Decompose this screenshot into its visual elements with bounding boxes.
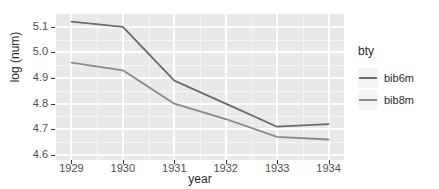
legend-label: bib6m	[384, 72, 414, 84]
legend-item-bib6m[interactable]: bib6m	[358, 67, 438, 89]
y-tick-mark	[51, 52, 55, 53]
legend-label: bib8m	[384, 94, 414, 106]
y-tick-mark	[51, 27, 55, 28]
series-lines	[56, 14, 344, 160]
line-chart: log (num) 5.15.04.94.84.74.6 19291930193…	[0, 0, 439, 189]
plot-panel	[56, 14, 344, 160]
x-tick-mark	[123, 160, 124, 164]
y-tick-label: 4.7	[14, 123, 48, 134]
x-tick-mark	[277, 160, 278, 164]
x-tick-mark	[71, 160, 72, 164]
y-axis-tick-labels: 5.15.04.94.84.74.6	[10, 0, 48, 189]
y-tick-mark	[51, 155, 55, 156]
y-tick-mark	[51, 104, 55, 105]
legend-key-bib8m	[358, 90, 378, 110]
legend-title: bty	[358, 44, 438, 58]
x-axis-title: year	[56, 172, 344, 186]
x-tick-mark	[226, 160, 227, 164]
y-tick-label: 5.0	[14, 46, 48, 57]
y-tick-label: 5.1	[14, 21, 48, 32]
legend-item-bib8m[interactable]: bib8m	[358, 89, 438, 111]
legend-items: bib6mbib8m	[358, 67, 438, 111]
y-tick-mark	[51, 129, 55, 130]
y-tick-label: 4.9	[14, 72, 48, 83]
y-tick-label: 4.6	[14, 149, 48, 160]
x-tick-mark	[174, 160, 175, 164]
legend: bty bib6mbib8m	[358, 44, 438, 111]
legend-key-bib6m	[358, 68, 378, 88]
x-tick-mark	[329, 160, 330, 164]
series-line-bib8m	[71, 63, 328, 140]
y-tick-label: 4.8	[14, 98, 48, 109]
y-tick-mark	[51, 78, 55, 79]
